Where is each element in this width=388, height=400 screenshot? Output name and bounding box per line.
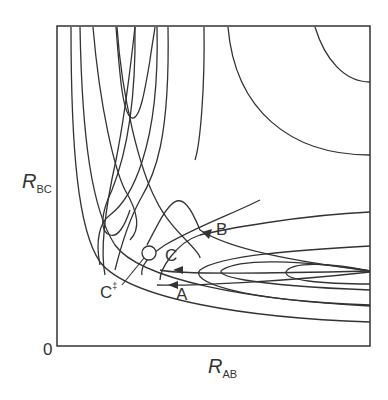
x-axis-label-main: R: [208, 355, 222, 377]
point-label-C-ts-letter: C: [100, 283, 112, 302]
y-axis-label: RBC: [22, 170, 52, 193]
contour-line: [71, 27, 370, 322]
y-axis-label-main: R: [22, 170, 36, 192]
contour-line: [315, 27, 370, 82]
point-label-A: A: [176, 285, 187, 305]
x-axis-label: RAB: [208, 355, 237, 378]
contour-line: [228, 27, 370, 155]
transition-state-marker: [142, 246, 156, 260]
double-dagger-mark: ‡: [112, 281, 117, 291]
point-label-C-ts: C‡: [100, 283, 117, 303]
arrow-C-icon: [173, 266, 183, 274]
reaction-path: [147, 201, 370, 271]
contour-line: [199, 246, 370, 305]
point-label-C: C: [165, 246, 177, 266]
contour-diagram: [0, 0, 388, 400]
contour-line: [286, 264, 370, 284]
contour-line: [195, 27, 204, 160]
reaction-path: [160, 270, 370, 273]
y-axis-label-sub: BC: [36, 183, 51, 195]
x-axis-label-sub: AB: [222, 368, 237, 380]
transition-state-leader: [122, 258, 144, 285]
contour-line: [115, 27, 168, 270]
point-label-B: B: [216, 220, 227, 240]
origin-label: 0: [43, 340, 52, 360]
